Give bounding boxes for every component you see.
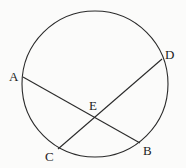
- label-e: E: [89, 98, 97, 113]
- circle-diagram: A B C D E: [0, 0, 186, 168]
- circle: [22, 11, 168, 157]
- label-a: A: [9, 69, 19, 84]
- label-b: B: [143, 143, 152, 158]
- label-c: C: [45, 149, 54, 164]
- label-d: D: [165, 47, 174, 62]
